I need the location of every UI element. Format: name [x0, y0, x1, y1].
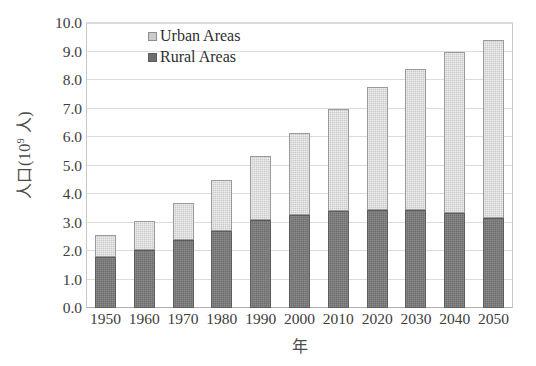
x-axis-title: 年 — [86, 333, 513, 357]
bar-segment-rural[interactable] — [250, 220, 271, 308]
bar-segment-urban[interactable] — [328, 109, 349, 212]
y-axis-tick-label: 1.0 — [34, 271, 82, 289]
x-axis-tick-label: 2020 — [362, 310, 393, 328]
bar-segment-rural[interactable] — [367, 210, 388, 308]
bar-segment-urban[interactable] — [483, 40, 504, 218]
x-axis-tick-label: 1970 — [168, 310, 199, 328]
bar-segment-urban[interactable] — [250, 156, 271, 220]
bar-segment-urban[interactable] — [367, 87, 388, 210]
bar-segment-urban[interactable] — [95, 235, 116, 256]
x-axis-tick-label: 1950 — [90, 310, 121, 328]
legend-swatch-rural-icon — [148, 53, 157, 62]
x-axis-tick-label: 2030 — [400, 310, 431, 328]
bar-group[interactable] — [289, 23, 310, 308]
legend-label-urban: Urban Areas — [160, 27, 240, 45]
x-axis-tick-label: 1990 — [245, 310, 276, 328]
legend-swatch-urban-icon — [148, 32, 157, 41]
y-axis-tick-label: 4.0 — [34, 185, 82, 203]
bar-segment-urban[interactable] — [444, 52, 465, 213]
bar-segment-rural[interactable] — [328, 211, 349, 308]
bar-group[interactable] — [95, 23, 116, 308]
bar-segment-rural[interactable] — [95, 257, 116, 308]
x-axis-tick-label: 2010 — [323, 310, 354, 328]
bar-group[interactable] — [367, 23, 388, 308]
bar-segment-urban[interactable] — [405, 69, 426, 210]
bar-segment-urban[interactable] — [211, 180, 232, 231]
bar-segment-rural[interactable] — [134, 250, 155, 308]
y-axis-tick-label: 0.0 — [34, 299, 82, 317]
bar-group[interactable] — [328, 23, 349, 308]
bar-segment-rural[interactable] — [444, 213, 465, 308]
y-axis-tick-label: 9.0 — [34, 43, 82, 61]
bar-group[interactable] — [483, 23, 504, 308]
chart-legend: Urban Areas Rural Areas — [148, 27, 240, 66]
bar-segment-rural[interactable] — [211, 231, 232, 308]
y-axis-tick-label: 7.0 — [34, 100, 82, 118]
y-axis-tick-label: 6.0 — [34, 128, 82, 146]
bar-segment-urban[interactable] — [134, 221, 155, 250]
legend-label-rural: Rural Areas — [160, 48, 236, 66]
bar-segment-rural[interactable] — [483, 218, 504, 308]
x-axis-tick-label: 2040 — [439, 310, 470, 328]
y-axis-tick-label: 8.0 — [34, 71, 82, 89]
x-axis-tick-label: 1960 — [129, 310, 160, 328]
y-axis-tick-label: 2.0 — [34, 242, 82, 260]
bar-segment-urban[interactable] — [173, 203, 194, 240]
bar-group[interactable] — [444, 23, 465, 308]
legend-item-rural: Rural Areas — [148, 48, 240, 66]
bar-group[interactable] — [405, 23, 426, 308]
y-axis-tick-label: 5.0 — [34, 157, 82, 175]
bar-segment-urban[interactable] — [289, 133, 310, 216]
bar-segment-rural[interactable] — [405, 210, 426, 308]
bar-segment-rural[interactable] — [289, 215, 310, 308]
legend-item-urban: Urban Areas — [148, 27, 240, 45]
y-axis-tick-labels: 0.01.02.03.04.05.06.07.08.09.010.0 — [30, 23, 82, 308]
bar-group[interactable] — [250, 23, 271, 308]
bar-segment-rural[interactable] — [173, 240, 194, 308]
y-axis-title-exponent: 9 — [15, 138, 26, 144]
x-axis-tick-label: 2000 — [284, 310, 315, 328]
x-axis-tick-label: 1980 — [206, 310, 237, 328]
population-stacked-bar-chart: 人口(109 人) 0.01.02.03.04.05.06.07.08.09.0… — [0, 0, 536, 366]
x-axis-tick-labels: 1950196019701980199020002010202020302040… — [86, 310, 513, 334]
y-axis-tick-label: 3.0 — [34, 214, 82, 232]
x-axis-tick-label: 2050 — [478, 310, 509, 328]
y-axis-tick-label: 10.0 — [34, 14, 82, 32]
